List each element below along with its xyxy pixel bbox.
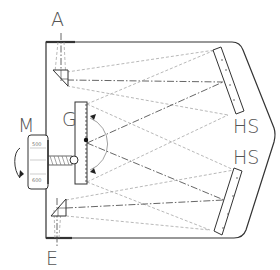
dial-value-top: 500 xyxy=(32,141,42,147)
drive-mechanism xyxy=(44,156,78,165)
optical-rays xyxy=(66,50,234,230)
exit-prism xyxy=(51,199,66,216)
mirror-bottom xyxy=(214,168,242,235)
label-mirror-bottom: HS xyxy=(233,146,259,168)
label-entrance-slit: A xyxy=(51,8,64,30)
rotation-arc xyxy=(90,118,108,170)
rotation-arrow-icon xyxy=(15,148,24,178)
dial-knob[interactable]: 500 600 xyxy=(28,135,48,189)
entrance-prism xyxy=(53,70,68,86)
label-grating: G xyxy=(62,108,77,130)
monochromator-diagram: 500 600 A E G M HS HS xyxy=(0,0,280,270)
label-exit-slit: E xyxy=(46,247,58,269)
mirror-top xyxy=(213,47,244,114)
label-drive: M xyxy=(18,114,34,136)
label-mirror-top: HS xyxy=(233,115,259,137)
dial-value-bottom: 600 xyxy=(32,177,42,183)
grating xyxy=(75,102,108,184)
